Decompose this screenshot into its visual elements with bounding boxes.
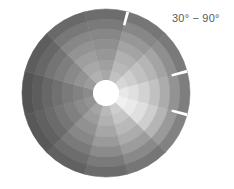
sector-cell	[89, 29, 122, 41]
angle-range-annotation: 30° − 90°	[172, 12, 220, 25]
sector-cell	[128, 84, 139, 101]
sector-cell	[62, 82, 74, 105]
sector-cell	[73, 84, 84, 101]
sector-cell	[95, 125, 118, 137]
figure-root: 30° − 90°	[0, 0, 234, 189]
sector-cell	[149, 79, 161, 107]
sector-cell	[138, 82, 150, 105]
sector-cell	[89, 145, 122, 157]
sector-cell	[97, 115, 114, 126]
sector-cell	[95, 49, 118, 61]
polar-sector-heatmap	[0, 0, 234, 189]
sector-cell	[92, 136, 120, 148]
sector-cell	[42, 76, 54, 109]
sector-cell	[97, 60, 114, 71]
center-hub	[93, 80, 119, 106]
sector-cell	[92, 39, 120, 51]
sector-cell	[158, 76, 170, 109]
sector-cell	[52, 79, 64, 107]
